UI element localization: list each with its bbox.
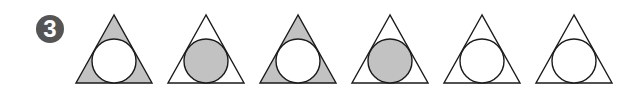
- triangle-figure-6: [536, 15, 612, 83]
- inscribed-circle: [368, 39, 412, 83]
- inscribed-circle: [92, 39, 136, 83]
- inscribed-circle: [276, 39, 320, 83]
- triangle-sequence: [0, 0, 644, 92]
- triangle-figure-5: [444, 15, 520, 83]
- triangle-figure-4: [352, 15, 428, 83]
- triangle-figure-1: [76, 15, 152, 83]
- inscribed-circle: [460, 39, 504, 83]
- triangle-figure-2: [168, 15, 244, 83]
- inscribed-circle: [184, 39, 228, 83]
- triangle-figure-3: [260, 15, 336, 83]
- inscribed-circle: [552, 39, 596, 83]
